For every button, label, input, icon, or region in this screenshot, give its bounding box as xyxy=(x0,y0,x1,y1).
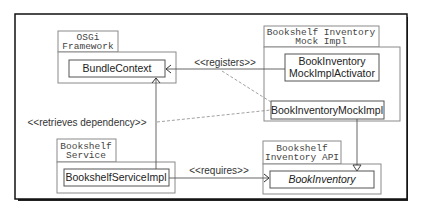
relation-label-registers: <<registers>> xyxy=(194,57,256,68)
relation-label-requires: <<requires>> xyxy=(189,165,249,176)
class-label: BookInventory xyxy=(288,173,356,185)
class-label: MockImplActivator xyxy=(289,67,375,79)
package-tab-label: Inventory API xyxy=(265,152,339,163)
class-label: BundleContext xyxy=(83,62,152,74)
diagram-canvas: OSGi Framework BundleContext Bookshelf I… xyxy=(0,0,422,215)
class-label: BookInventory xyxy=(298,55,366,67)
package-tab-label: Mock Impl xyxy=(295,36,347,47)
class-label: BookshelfServiceImpl xyxy=(66,171,167,183)
class-label: BookInventoryMockImpl xyxy=(271,104,383,116)
relation-label-retrieves: <<retrieves dependency>> xyxy=(28,117,147,128)
package-tab-label: Service xyxy=(66,150,106,161)
package-tab-label: Framework xyxy=(62,41,114,52)
